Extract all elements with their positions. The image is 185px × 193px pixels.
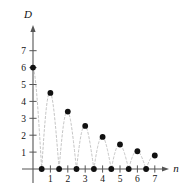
data-point [143,166,149,172]
data-point [48,90,54,96]
x-tick-label-7: 7 [152,174,157,184]
y-tick-label-7: 7 [21,46,26,56]
data-point [100,134,106,140]
x-tick-label-2: 2 [65,174,70,184]
data-point [30,65,36,71]
y-tick-label-2: 2 [21,131,26,141]
y-tick-label-3: 3 [21,114,26,124]
data-point [56,166,62,172]
x-axis-tick-labels: 1234567 [48,174,157,184]
data-point [126,166,132,172]
data-point [117,142,123,148]
data-point [74,166,80,172]
x-tick-label-1: 1 [48,174,53,184]
y-tick-label-6: 6 [21,63,26,73]
data-point [135,148,141,154]
y-tick-label-4: 4 [21,97,26,107]
x-axis-title: n [173,162,179,174]
y-tick-label-1: 1 [21,148,26,158]
x-tick-label-3: 3 [83,174,88,184]
x-axis-arrow-icon [162,166,169,171]
x-tick-label-6: 6 [135,174,140,184]
y-axis-tick-labels: 1234567 [21,46,26,157]
y-tick-label-5: 5 [21,80,26,90]
y-axis-title: D [23,8,32,20]
data-point-markers [30,65,158,172]
x-tick-label-4: 4 [100,174,105,184]
data-point [152,153,158,159]
data-point [65,109,71,115]
data-point [91,166,97,172]
damped-oscillation-scatter-plot: 1234567 1234567 D n [0,0,185,193]
chart-container: 1234567 1234567 D n [0,0,185,193]
data-point [108,166,114,172]
data-point [39,166,45,172]
x-tick-label-5: 5 [118,174,123,184]
y-axis-arrow-icon [30,25,35,32]
data-point [82,123,88,129]
